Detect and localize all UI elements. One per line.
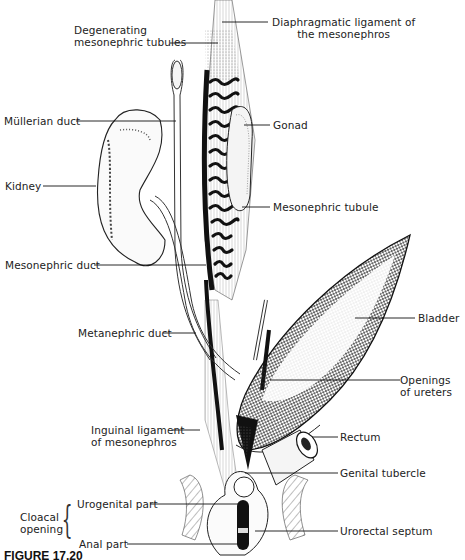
label-rectum: Rectum <box>340 431 381 443</box>
label-line-2: the mesonephros <box>272 28 415 40</box>
label-line-2: of mesonephros <box>91 436 184 448</box>
label-gonad: Gonad <box>273 119 308 131</box>
bladder <box>236 235 410 452</box>
label-urorectal-septum: Urorectal septum <box>340 525 433 537</box>
label-anal-part: Anal part <box>79 538 128 550</box>
label-line-2: opening <box>20 523 63 535</box>
label-mesonephric-tubule: Mesonephric tubule <box>273 201 378 213</box>
label-line-1: Openings <box>400 374 452 386</box>
label-line-1: Diaphragmatic ligament of <box>272 16 415 28</box>
gonad <box>227 107 253 211</box>
label-metanephric-duct: Metanephric duct <box>78 327 172 339</box>
label-diaphragmatic-ligament: Diaphragmatic ligament of the mesonephro… <box>272 16 415 40</box>
label-line-2: mesonephric tubules <box>74 36 186 48</box>
label-degenerating-tubules: Degenerating mesonephric tubules <box>74 24 186 48</box>
label-mesonephric-duct: Mesonephric duct <box>5 259 100 271</box>
label-line-1: Inguinal ligament <box>91 424 184 436</box>
brace-icon: { <box>62 500 73 538</box>
label-openings-ureters: Openings of ureters <box>400 374 452 398</box>
cloaca <box>180 471 308 555</box>
label-cloacal-opening: Cloacal opening <box>20 511 63 535</box>
label-line-2: of ureters <box>400 386 452 398</box>
label-line-1: Degenerating <box>74 24 186 36</box>
label-mullerian-duct: Müllerian duct <box>4 115 80 127</box>
figure-caption: FIGURE 17.20 <box>4 549 83 560</box>
label-bladder: Bladder <box>418 312 459 324</box>
label-urogenital-part: Urogenital part <box>77 498 158 510</box>
label-line-1: Cloacal <box>20 511 63 523</box>
label-genital-tubercle: Genital tubercle <box>340 467 426 479</box>
label-kidney: Kidney <box>5 180 41 192</box>
label-inguinal-ligament: Inguinal ligament of mesonephros <box>91 424 184 448</box>
